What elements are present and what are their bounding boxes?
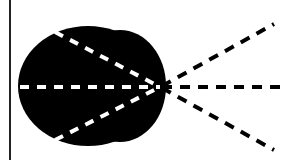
lens-ray-diagram	[0, 0, 281, 160]
outer-dashed-rays	[162, 24, 281, 150]
outer-ray-lower	[162, 88, 274, 150]
outer-ray-upper	[162, 24, 274, 86]
